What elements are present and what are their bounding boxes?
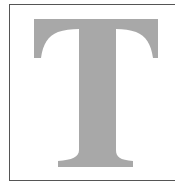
letter-t-glyph bbox=[0, 0, 175, 186]
